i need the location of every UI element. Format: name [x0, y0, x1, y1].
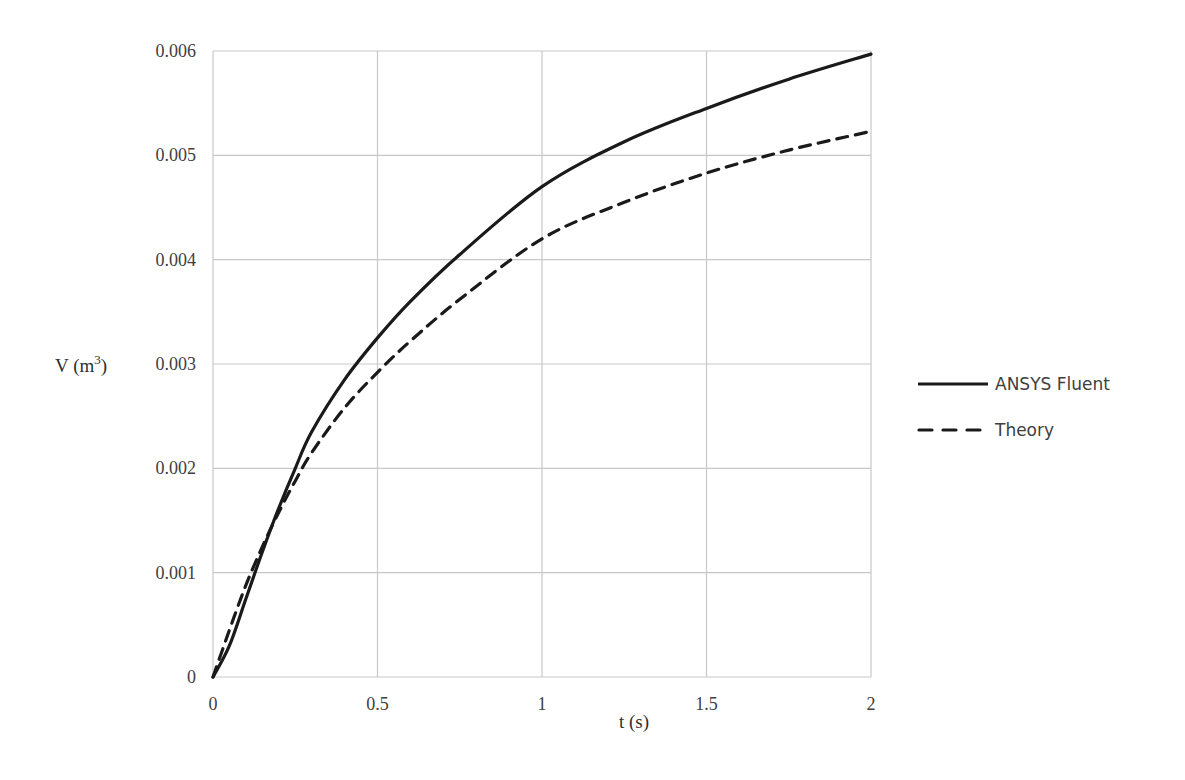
x-axis-ticks: 00.511.52	[209, 694, 876, 714]
y-tick-label: 0.002	[156, 458, 197, 478]
x-axis-title: t (s)	[619, 711, 649, 733]
legend-label-ansys-fluent: ANSYS Fluent	[995, 374, 1110, 394]
x-tick-label: 0	[209, 694, 218, 714]
legend: ANSYS Fluent Theory	[918, 374, 1110, 440]
y-tick-label: 0.004	[156, 250, 197, 270]
y-tick-label: 0.006	[156, 41, 197, 61]
grid-lines	[213, 51, 871, 677]
y-tick-label: 0.001	[156, 563, 197, 583]
x-tick-label: 0.5	[366, 694, 389, 714]
y-tick-label: 0.005	[156, 145, 197, 165]
legend-label-theory: Theory	[994, 420, 1054, 440]
legend-item-ansys-fluent: ANSYS Fluent	[918, 374, 1110, 394]
legend-item-theory: Theory	[919, 420, 1054, 440]
x-tick-label: 2	[867, 694, 876, 714]
x-tick-label: 1	[538, 694, 547, 714]
y-axis-ticks: 00.0010.0020.0030.0040.0050.006	[156, 41, 197, 687]
y-tick-label: 0	[187, 667, 196, 687]
y-axis-title: V (m3)	[55, 352, 107, 377]
x-tick-label: 1.5	[695, 694, 718, 714]
y-tick-label: 0.003	[156, 354, 197, 374]
line-chart: 00.0010.0020.0030.0040.0050.006 00.511.5…	[0, 0, 1185, 780]
